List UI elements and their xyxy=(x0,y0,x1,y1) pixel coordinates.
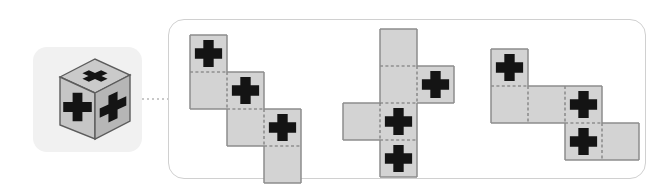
cube-illustration xyxy=(33,47,142,152)
net-2-graphic xyxy=(341,27,456,179)
net-face[interactable] xyxy=(380,29,417,66)
net-face[interactable] xyxy=(190,72,227,109)
net-staircase-descending[interactable] xyxy=(188,33,340,185)
net-1-graphic xyxy=(188,33,340,185)
dotted-connector xyxy=(142,98,169,100)
net-zigzag-step[interactable] xyxy=(489,47,641,162)
cube-thumbnail[interactable] xyxy=(33,47,142,152)
net-face[interactable] xyxy=(227,109,264,146)
net-3-graphic xyxy=(489,47,641,162)
net-face[interactable] xyxy=(343,103,380,140)
net-face[interactable] xyxy=(602,123,639,160)
net-face[interactable] xyxy=(491,86,528,123)
net-cross-column[interactable] xyxy=(341,27,456,179)
net-face[interactable] xyxy=(528,86,565,123)
net-face[interactable] xyxy=(380,66,417,103)
net-face[interactable] xyxy=(264,146,301,183)
figure-stage xyxy=(0,0,671,194)
